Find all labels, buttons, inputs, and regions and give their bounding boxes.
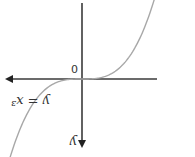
plot-area: y y = x³ 0 xyxy=(0,0,195,157)
origin-label: 0 xyxy=(71,62,78,75)
cubic-graph-figure: y y = x³ 0 xyxy=(0,0,195,157)
x-axis-arrow-icon xyxy=(5,75,13,83)
equation-label: y = x³ xyxy=(11,94,51,109)
y-axis-label: y xyxy=(69,135,78,150)
y-axis-arrow-icon xyxy=(78,140,86,148)
